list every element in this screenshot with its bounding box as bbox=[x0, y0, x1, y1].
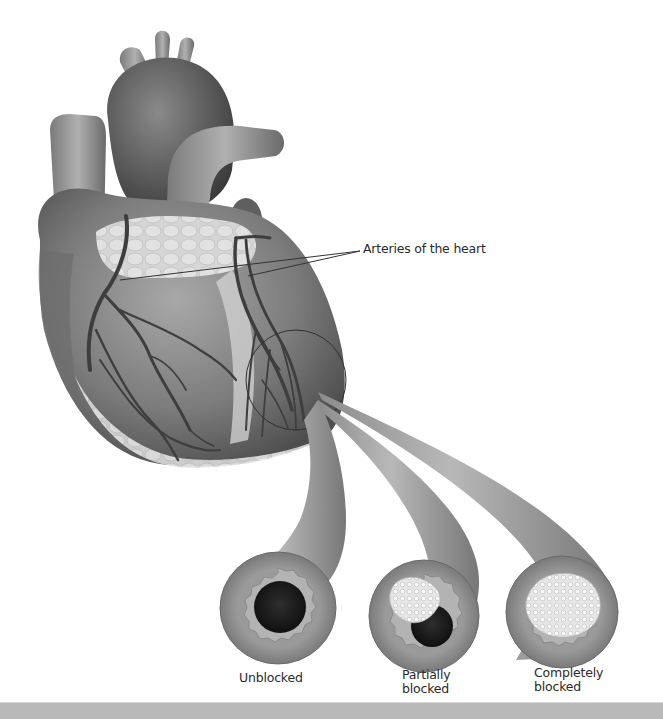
cross-section-partially-blocked bbox=[369, 560, 479, 672]
label-partially-line2: blocked bbox=[402, 682, 450, 696]
label-partially-line1: Partially bbox=[402, 668, 450, 682]
bottom-gray-bar bbox=[0, 702, 663, 719]
label-arteries-of-the-heart: Arteries of the heart bbox=[363, 242, 486, 256]
cross-section-unblocked bbox=[220, 552, 336, 664]
label-completely-line2: blocked bbox=[534, 680, 603, 694]
label-completely-blocked: Completely blocked bbox=[534, 666, 603, 694]
label-partially-blocked: Partially blocked bbox=[402, 668, 450, 696]
label-completely-line1: Completely bbox=[534, 666, 603, 680]
label-unblocked: Unblocked bbox=[239, 671, 303, 685]
heart-body bbox=[38, 189, 345, 468]
cross-section-completely-blocked bbox=[506, 556, 618, 668]
